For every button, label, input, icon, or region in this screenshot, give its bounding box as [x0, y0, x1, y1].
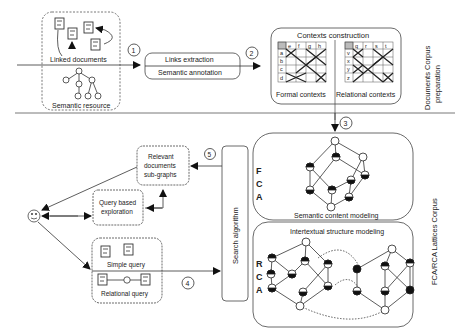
svg-text:v: v: [347, 50, 350, 56]
relational-contexts-label: Relational contexts: [336, 91, 396, 98]
svg-text:Documents Corpus: Documents Corpus: [423, 46, 432, 110]
svg-text:s: s: [375, 43, 378, 49]
svg-text:x: x: [347, 58, 350, 64]
semantic-annotation-label: Semantic annotation: [158, 69, 222, 76]
step-5: 5: [208, 151, 212, 158]
svg-text:g: g: [308, 43, 311, 49]
semantic-resource-label: Semantic resource: [52, 102, 110, 109]
svg-text:F: F: [256, 166, 262, 176]
user-smiley-icon: [28, 210, 40, 222]
svg-text:Search algorithm: Search algorithm: [231, 207, 240, 264]
simple-query-label: Simple query: [107, 261, 146, 269]
query-exploration-box: Query based exploration: [93, 190, 143, 225]
diagram-canvas: Linked documents Semantic resource 1 Lin…: [0, 0, 471, 331]
links-extraction-label: Links extraction: [165, 56, 214, 63]
svg-text:f: f: [298, 43, 300, 49]
semantic-tree-icon: [63, 68, 101, 99]
step-2: 2: [250, 50, 254, 57]
contexts-title: Contexts construction: [297, 31, 369, 40]
svg-text:a: a: [280, 50, 284, 56]
svg-text:A: A: [256, 192, 263, 202]
svg-text:q: q: [355, 43, 358, 49]
svg-text:r: r: [365, 43, 367, 49]
processing-box: Links extraction Semantic annotation: [145, 53, 260, 79]
svg-text:t: t: [385, 43, 387, 49]
fca-lattice-graph: [310, 141, 365, 207]
svg-text:C: C: [256, 179, 263, 189]
relevant-subgraphs-box: Relevant documents sub-graphs: [137, 146, 189, 185]
svg-text:z: z: [347, 75, 350, 81]
query-box: Simple query Relational query: [92, 238, 162, 303]
corpus-box: Linked documents Semantic resource: [42, 12, 120, 110]
section-label-bottom: FCA/RCA Lattices Corpus: [430, 198, 439, 285]
svg-text:sub-graphs: sub-graphs: [144, 171, 177, 179]
svg-text:e: e: [288, 43, 291, 49]
step-4: 4: [186, 280, 190, 287]
svg-text:b: b: [280, 58, 283, 64]
svg-text:h: h: [318, 43, 321, 49]
svg-text:exploration: exploration: [101, 208, 133, 216]
intertextual-label: Intertextual structure modeling: [290, 228, 384, 236]
step-3: 3: [344, 120, 348, 127]
relational-query-label: Relational query: [101, 290, 149, 298]
semantic-content-label: Semantic content modeling: [294, 212, 379, 220]
rca-lattice-box: Intertextual structure modeling R C A: [253, 222, 414, 327]
search-algorithm-box: Search algorithm: [222, 146, 248, 301]
svg-text:R: R: [256, 259, 263, 269]
svg-text:C: C: [256, 272, 263, 282]
svg-text:Relevant: Relevant: [148, 153, 174, 160]
svg-text:documents: documents: [144, 162, 177, 169]
contexts-box: Contexts construction ef gh ab cd Formal…: [271, 28, 401, 120]
step-1: 1: [132, 47, 136, 54]
linked-documents-label: Linked documents: [50, 56, 107, 63]
svg-text:c: c: [280, 66, 283, 72]
svg-text:preparation: preparation: [433, 65, 442, 103]
formal-contexts-label: Formal contexts: [276, 91, 326, 98]
svg-text:d: d: [280, 75, 283, 81]
svg-text:y: y: [347, 66, 350, 72]
svg-text:A: A: [256, 285, 263, 295]
svg-text:Query based: Query based: [99, 199, 137, 207]
fca-lattice-box: F C A Semantic content modeling: [253, 133, 413, 220]
section-label-top: Documents Corpus preparation: [423, 46, 442, 110]
